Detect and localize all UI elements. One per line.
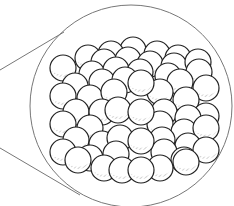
sphere <box>65 147 91 173</box>
sphere <box>128 157 154 183</box>
sphere <box>128 128 154 154</box>
crystal-lattice-diagram <box>0 0 234 206</box>
sphere <box>173 149 199 175</box>
sphere <box>128 99 154 125</box>
sphere-group <box>50 37 219 183</box>
sphere <box>128 70 154 96</box>
sphere <box>105 97 131 123</box>
